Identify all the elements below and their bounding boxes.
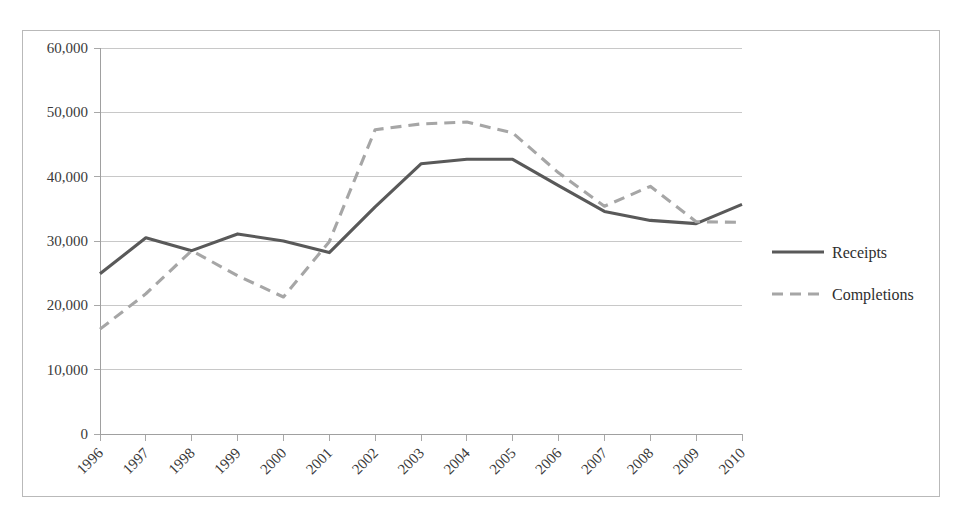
x-axis-tick-label: 1999 — [211, 445, 244, 478]
x-axis-tick-label: 2002 — [349, 445, 382, 478]
x-axis-tick-label: 2000 — [257, 445, 290, 478]
y-axis-tick-label: 30,000 — [47, 233, 88, 249]
x-axis-tick-labels: 1996199719981999200020012002200320042005… — [74, 444, 749, 477]
x-axis-tick-label: 2008 — [624, 445, 657, 478]
chart-legend: ReceiptsCompletions — [772, 244, 914, 304]
data-series — [100, 122, 742, 329]
x-axis-tick-label: 2006 — [532, 444, 565, 477]
x-axis-tick-label: 2004 — [440, 444, 473, 477]
legend-label-receipts: Receipts — [832, 244, 887, 262]
x-axis-tick-label: 2007 — [578, 444, 611, 477]
legend-label-completions: Completions — [832, 286, 914, 304]
y-axis-tick-labels: 010,00020,00030,00040,00050,00060,000 — [47, 40, 88, 442]
line-chart: 010,00020,00030,00040,00050,00060,000 19… — [0, 0, 961, 521]
series-line-completions — [100, 122, 742, 329]
x-axis-tick-label: 2003 — [395, 445, 428, 478]
y-axis-tick-label: 50,000 — [47, 104, 88, 120]
x-axis-tick-label: 2009 — [670, 445, 703, 478]
x-axis-tick-label: 2005 — [486, 445, 519, 478]
y-axis-tick-label: 40,000 — [47, 169, 88, 185]
x-axis-tick-label: 1996 — [74, 444, 107, 477]
y-axis-tick-label: 60,000 — [47, 40, 88, 56]
x-axis-tick-label: 2010 — [716, 445, 749, 478]
x-axis-tick-label: 1998 — [165, 445, 198, 478]
x-axis-tick-label: 1997 — [119, 444, 152, 477]
y-axis-tick-label: 10,000 — [47, 362, 88, 378]
gridlines — [94, 48, 742, 434]
y-axis-tick-label: 0 — [81, 426, 89, 442]
x-axis-tick-label: 2001 — [303, 445, 336, 478]
y-axis-tick-label: 20,000 — [47, 297, 88, 313]
x-axis-tick-marks — [100, 434, 742, 441]
